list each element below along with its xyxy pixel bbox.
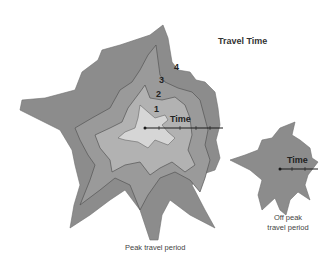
offpeak-caption-line2: travel period — [264, 223, 312, 233]
contour-label-2: 2 — [156, 89, 161, 99]
contour-label-3: 3 — [159, 75, 164, 85]
offpeak-time-label: Time — [287, 155, 308, 165]
peak-caption: Peak travel period — [125, 243, 185, 253]
diagram-title: Travel Time — [218, 36, 267, 46]
contour-label-4: 4 — [174, 62, 179, 72]
offpeak-caption-line1: Off peak — [264, 213, 312, 223]
peak-time-label: Time — [170, 114, 191, 124]
contour-label-1: 1 — [154, 104, 159, 114]
offpeak-caption: Off peak travel period — [264, 213, 312, 233]
